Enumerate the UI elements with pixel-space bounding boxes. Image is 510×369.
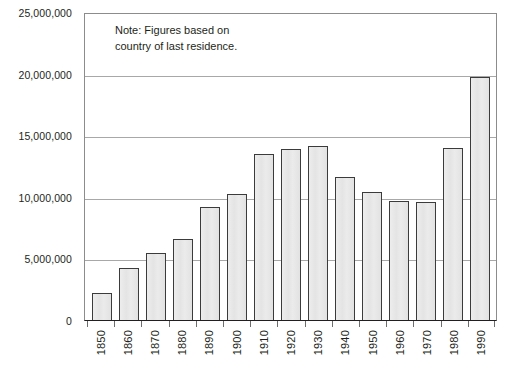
x-label-slot: 1920 [277,330,304,369]
bar-slot [277,14,304,320]
bar-slot [467,14,494,320]
x-tick [196,321,197,327]
x-axis-tick-label: 1920 [285,330,297,355]
bar-series [85,14,496,320]
x-axis-labels: 1850 1860 1870 1880 1890 1900 1910 1920 … [84,330,497,369]
bar-1880 [173,239,193,320]
x-axis-tick-label: 1850 [95,330,107,355]
x-axis-tick-label: 1910 [258,330,270,355]
x-tick [250,321,251,327]
x-tick [468,321,469,327]
bar-slot [332,14,359,320]
tick-slot [359,321,386,328]
plot-area: Note: Figures based on country of last r… [84,13,497,321]
tick-slot [386,321,413,328]
bar-slot [250,14,277,320]
bar-1930 [308,146,328,320]
tick-slot [169,321,196,328]
x-label-slot: 1900 [223,330,250,369]
x-axis-tick-label: 1880 [176,330,188,355]
x-axis-ticks [84,321,497,328]
bar-1940 [335,177,355,320]
x-label-slot: 1970 [413,330,440,369]
bar-slot [223,14,250,320]
tick-slot [87,321,114,328]
y-axis-labels: 25,000,000 20,000,000 15,000,000 10,000,… [0,0,80,330]
bar-slot [305,14,332,320]
bar-1970 [416,202,436,320]
x-tick [359,321,360,327]
tick-slot [413,321,440,328]
x-axis-tick-label: 1980 [448,330,460,355]
x-label-slot: 1980 [441,330,468,369]
y-axis-tick-label: 5,000,000 [24,253,72,265]
x-label-slot: 1870 [141,330,168,369]
x-axis-tick-label: 1950 [367,330,379,355]
bar-1850 [92,293,112,320]
tick-slot [277,321,304,328]
x-label-slot: 1880 [169,330,196,369]
y-axis-tick-label: 15,000,000 [18,130,72,142]
tick-slot [441,321,468,328]
x-tick [277,321,278,327]
tick-slot [305,321,332,328]
x-tick [305,321,306,327]
y-axis-tick-label: 20,000,000 [18,69,72,81]
x-tick [141,321,142,327]
x-axis-tick-label: 1870 [149,330,161,355]
x-tick [332,321,333,327]
x-tick [441,321,442,327]
x-label-slot: 1930 [305,330,332,369]
x-label-slot: 1960 [386,330,413,369]
x-tick [494,321,495,327]
tick-slot [250,321,277,328]
bar-1860 [119,268,139,320]
bar-1890 [200,207,220,320]
x-axis-tick-label: 1860 [122,330,134,355]
bar-slot [359,14,386,320]
tick-slot [332,321,359,328]
x-axis-tick-label: 1900 [231,330,243,355]
bar-slot [115,14,142,320]
bar-slot [142,14,169,320]
x-label-slot: 1890 [196,330,223,369]
x-label-slot: 1860 [114,330,141,369]
bar-slot [196,14,223,320]
y-axis-tick-label: 0 [66,315,72,327]
x-axis-tick-label: 1930 [312,330,324,355]
bar-1910 [254,154,274,320]
bar-1960 [389,201,409,321]
x-tick [413,321,414,327]
x-axis-tick-label: 1990 [475,330,487,355]
bar-slot [386,14,413,320]
tick-slot [468,321,495,328]
x-axis-tick-label: 1970 [421,330,433,355]
tick-slot [114,321,141,328]
x-label-slot: 1850 [87,330,114,369]
bar-1920 [281,149,301,320]
y-axis-tick-label: 10,000,000 [18,192,72,204]
x-tick [223,321,224,327]
tick-slot [223,321,250,328]
x-tick [386,321,387,327]
bar-1990 [470,77,490,320]
bar-1870 [146,253,166,320]
x-tick [114,321,115,327]
bar-1980 [443,148,463,320]
bar-slot [413,14,440,320]
x-label-slot: 1940 [332,330,359,369]
x-label-slot: 1950 [359,330,386,369]
tick-slot [141,321,168,328]
x-tick [87,321,88,327]
x-label-slot: 1990 [468,330,495,369]
x-axis-tick-label: 1890 [203,330,215,355]
x-axis-tick-label: 1940 [339,330,351,355]
x-label-slot: 1910 [250,330,277,369]
bar-slot [169,14,196,320]
x-tick [169,321,170,327]
x-axis-tick-label: 1960 [394,330,406,355]
bar-slot [440,14,467,320]
y-axis-tick-label: 25,000,000 [18,7,72,19]
bar-1950 [362,192,382,320]
bar-1900 [227,194,247,320]
